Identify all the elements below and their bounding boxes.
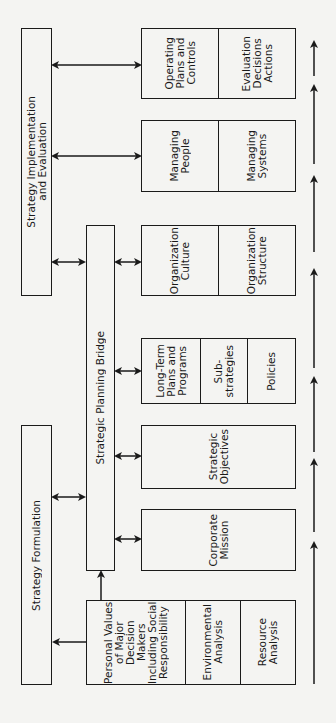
organization-structure-label: Organization Structure <box>246 227 268 294</box>
organization-block: Organization Culture Organization Struct… <box>141 225 296 296</box>
inputs-block: Personal Values of Major Decision Makers… <box>86 600 296 685</box>
managing-systems-label: Managing Systems <box>246 130 268 182</box>
organization-culture-label: Organization Culture <box>169 227 191 294</box>
managing-people-label: Managing People <box>169 130 191 182</box>
policies-label: Policies <box>266 352 277 391</box>
environmental-analysis-label: Environmental Analysis <box>202 604 224 680</box>
strategic-objectives-label: Strategic Objectives <box>208 429 230 484</box>
strategy-implementation-box: Strategy Implementation and Evaluation <box>21 28 52 296</box>
strategic-planning-bridge-box: Strategic Planning Bridge <box>86 225 115 571</box>
corporate-mission-block: Corporate Mission <box>141 509 296 571</box>
strategy-implementation-label: Strategy Implementation and Evaluation <box>26 96 48 228</box>
plans-block: Long-Term Plans and Programs Sub- strate… <box>141 338 296 404</box>
operating-plans-label: Operating Plans and Controls <box>164 37 197 90</box>
strategy-formulation-box: Strategy Formulation <box>21 425 52 685</box>
personal-values-label: Personal Values of Major Decision Makers… <box>103 601 169 684</box>
strategic-objectives-block: Strategic Objectives <box>141 425 296 489</box>
strategic-planning-bridge-label: Strategic Planning Bridge <box>95 331 106 465</box>
resource-analysis-label: Resource Analysis <box>257 618 279 666</box>
managing-block: Managing People Managing Systems <box>141 120 296 192</box>
strategy-formulation-label: Strategy Formulation <box>31 500 42 611</box>
long-term-plans-label: Long-Term Plans and Programs <box>155 344 188 398</box>
operating-block: Operating Plans and Controls Evaluation … <box>141 28 296 99</box>
substrategies-label: Sub- strategies <box>213 345 235 397</box>
evaluation-decisions-label: Evaluation Decisions Actions <box>241 36 274 91</box>
corporate-mission-label: Corporate Mission <box>208 514 230 567</box>
